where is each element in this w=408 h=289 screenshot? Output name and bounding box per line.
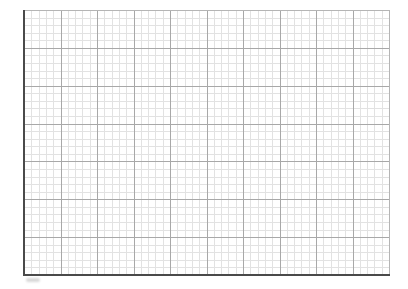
major-grid-lines	[24, 10, 389, 275]
graph-paper-grid	[0, 0, 408, 289]
minor-grid-lines	[24, 10, 389, 275]
grid-border	[24, 10, 390, 275]
corner-mark	[26, 278, 40, 282]
